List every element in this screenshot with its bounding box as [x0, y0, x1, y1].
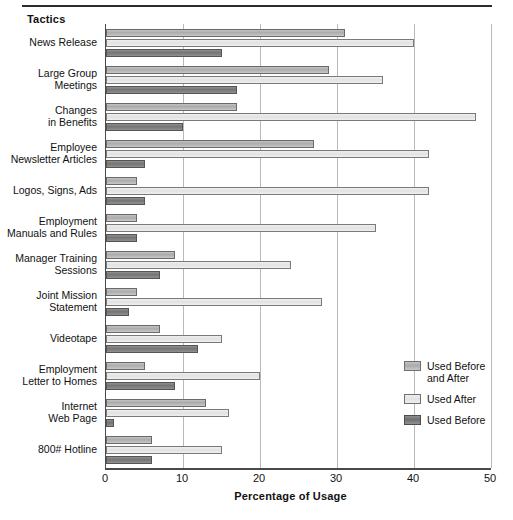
legend-label: Used Beforeand After: [427, 360, 485, 384]
category-label: EmployeeNewsletter Articles: [0, 141, 97, 165]
category-label-line: Manuals and Rules: [0, 227, 97, 239]
category-label: Large GroupMeetings: [0, 67, 97, 91]
category-axis-labels: News ReleaseLarge GroupMeetingsChangesin…: [0, 24, 100, 468]
legend-swatch-icon: [404, 415, 421, 425]
bar-group: [106, 98, 490, 135]
bar-before_after: [106, 29, 345, 37]
bar-before_after: [106, 140, 314, 148]
category-label-line: Statement: [0, 301, 97, 313]
category-label-line: Meetings: [0, 79, 97, 91]
category-label-line: Manager Training: [0, 252, 97, 264]
x-tick-20: 20: [253, 472, 265, 484]
legend-label-line: Used Before: [427, 360, 485, 372]
bar-group: [106, 61, 490, 98]
category-label-line: Employment: [0, 215, 97, 227]
bar-before_after: [106, 436, 152, 444]
bar-before_after: [106, 103, 237, 111]
bar-before: [106, 49, 222, 57]
bar-before: [106, 382, 175, 390]
category-label: InternetWeb Page: [0, 400, 97, 424]
category-label-line: Joint Mission: [0, 289, 97, 301]
category-label: Logos, Signs, Ads: [0, 184, 97, 196]
legend-item[interactable]: Used Before: [404, 414, 512, 426]
legend-label-line: Used Before: [427, 414, 485, 426]
x-axis-title: Percentage of Usage: [0, 490, 513, 502]
x-tick-40: 40: [407, 472, 419, 484]
bar-group: [106, 320, 490, 357]
bar-after: [106, 409, 229, 417]
bar-before_after: [106, 362, 145, 370]
bar-after: [106, 335, 222, 343]
chart-legend: Used Beforeand AfterUsed AfterUsed Befor…: [404, 360, 512, 435]
bar-before: [106, 123, 183, 131]
top-divider-rule: [22, 5, 492, 7]
category-label-line: Newsletter Articles: [0, 153, 97, 165]
bar-after: [106, 261, 291, 269]
category-label: Changesin Benefits: [0, 104, 97, 128]
category-label: 800# Hotline: [0, 443, 97, 455]
bar-before_after: [106, 288, 137, 296]
bar-after: [106, 76, 383, 84]
bar-before: [106, 419, 114, 427]
category-label: Manager TrainingSessions: [0, 252, 97, 276]
x-tick-50: 50: [484, 472, 496, 484]
bar-before: [106, 308, 129, 316]
bar-before_after: [106, 214, 137, 222]
bar-before_after: [106, 177, 137, 185]
bar-before: [106, 86, 237, 94]
bar-before_after: [106, 251, 175, 259]
x-tick-10: 10: [176, 472, 188, 484]
category-label-line: Sessions: [0, 264, 97, 276]
bar-before_after: [106, 399, 206, 407]
legend-item[interactable]: Used After: [404, 393, 512, 405]
category-label-line: Employment: [0, 363, 97, 375]
bar-before: [106, 197, 145, 205]
category-label: EmploymentManuals and Rules: [0, 215, 97, 239]
bar-group: [106, 135, 490, 172]
category-label-line: 800# Hotline: [0, 443, 97, 455]
bar-before: [106, 345, 198, 353]
legend-swatch-icon: [404, 361, 421, 371]
category-label: EmploymentLetter to Homes: [0, 363, 97, 387]
x-tick-0: 0: [102, 472, 108, 484]
legend-label-line: Used After: [427, 393, 476, 405]
category-label-line: Logos, Signs, Ads: [0, 184, 97, 196]
bar-after: [106, 372, 260, 380]
bar-after: [106, 150, 429, 158]
bar-group: [106, 246, 490, 283]
bar-after: [106, 113, 476, 121]
x-axis-line: [105, 468, 491, 470]
bar-before: [106, 271, 160, 279]
category-label-line: Web Page: [0, 412, 97, 424]
category-label: Joint MissionStatement: [0, 289, 97, 313]
legend-item[interactable]: Used Beforeand After: [404, 360, 512, 384]
bar-group: [106, 24, 490, 61]
category-label-line: in Benefits: [0, 116, 97, 128]
category-label-line: News Release: [0, 36, 97, 48]
bar-group: [106, 172, 490, 209]
bar-before: [106, 160, 145, 168]
bar-group: [106, 209, 490, 246]
bar-before: [106, 456, 152, 464]
bar-chart-figure: Tactics News ReleaseLarge GroupMeetingsC…: [0, 0, 513, 520]
category-label-line: Internet: [0, 400, 97, 412]
category-label: News Release: [0, 36, 97, 48]
legend-label: Used After: [427, 393, 476, 405]
bar-after: [106, 39, 414, 47]
bar-group: [106, 283, 490, 320]
category-label-line: Letter to Homes: [0, 375, 97, 387]
category-label-line: Videotape: [0, 332, 97, 344]
x-axis-title-text: Percentage of Usage: [234, 490, 347, 502]
bar-before: [106, 234, 137, 242]
bar-after: [106, 446, 222, 454]
bar-before_after: [106, 66, 329, 74]
bar-after: [106, 298, 322, 306]
bar-after: [106, 224, 376, 232]
bar-group: [106, 431, 490, 468]
legend-label: Used Before: [427, 414, 485, 426]
legend-swatch-icon: [404, 394, 421, 404]
category-label-line: Large Group: [0, 67, 97, 79]
category-label-line: Employee: [0, 141, 97, 153]
bar-after: [106, 187, 429, 195]
bar-before_after: [106, 325, 160, 333]
